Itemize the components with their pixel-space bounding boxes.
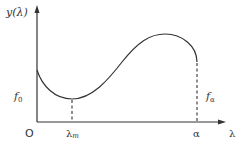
- origin-label: O: [25, 127, 34, 140]
- x-axis-label: λ: [229, 128, 236, 139]
- x-axis: [37, 120, 226, 125]
- y-axis: [35, 5, 40, 122]
- y-axis-arrow-icon: [35, 5, 40, 13]
- lambda-m-label: λm: [66, 128, 79, 140]
- alpha-label: α: [193, 128, 200, 139]
- f0-label: f0: [13, 90, 23, 104]
- y-axis-label: y(λ): [5, 6, 28, 19]
- function-diagram: y(λ) O λm α λ f0 fα: [0, 0, 249, 148]
- x-axis-arrow-icon: [218, 120, 226, 125]
- f-alpha-label: fα: [205, 90, 215, 104]
- function-curve: [37, 34, 197, 99]
